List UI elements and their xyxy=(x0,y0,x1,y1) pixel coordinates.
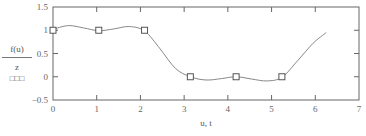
y-tick-label: −0.5 xyxy=(32,95,49,105)
curve-f-u xyxy=(53,26,326,81)
plot-frame xyxy=(53,7,359,100)
frame-rect xyxy=(53,7,359,100)
square-marker-icon xyxy=(233,74,239,80)
axis-ticks xyxy=(53,7,359,100)
x-tick-label: 3 xyxy=(182,104,187,114)
x-tick-label: 4 xyxy=(226,104,231,114)
x-tick-label: 7 xyxy=(357,104,362,114)
y-tick-label: 0.5 xyxy=(37,49,49,59)
square-marker-icon xyxy=(279,74,285,80)
x-tick-label: 2 xyxy=(138,104,143,114)
plot-area: 1.510.50−0.5 01234567 u, t xyxy=(0,0,366,136)
x-axis-label: u, t xyxy=(200,118,212,128)
y-tick-label: 0 xyxy=(44,72,49,82)
y-tick-label: 1 xyxy=(44,25,49,35)
square-marker-icon xyxy=(96,27,102,33)
square-marker-icon xyxy=(142,27,148,33)
x-tick-label: 0 xyxy=(51,104,56,114)
y-tick-label: 1.5 xyxy=(37,2,49,12)
square-marker-icon xyxy=(50,27,56,33)
x-tick-label: 6 xyxy=(313,104,318,114)
x-tick-label: 5 xyxy=(269,104,274,114)
square-marker-icon xyxy=(187,74,193,80)
data-markers-z xyxy=(50,27,285,80)
x-tick-labels: 01234567 xyxy=(51,104,362,114)
y-tick-labels: 1.510.50−0.5 xyxy=(32,2,49,105)
x-tick-label: 1 xyxy=(94,104,99,114)
